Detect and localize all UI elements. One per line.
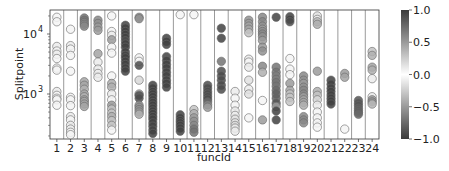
y-axis: 103104	[23, 16, 50, 136]
data-point	[286, 97, 294, 105]
data-point	[135, 110, 143, 118]
data-point	[94, 49, 102, 57]
data-point	[341, 125, 349, 133]
series-funcid-24	[368, 47, 376, 108]
x-tick-label: 22	[338, 142, 352, 155]
data-point	[272, 13, 280, 21]
data-point	[258, 68, 266, 76]
data-point	[245, 114, 253, 122]
data-point	[272, 116, 280, 124]
colorbar-tick-label: 1.0	[413, 4, 431, 17]
data-point	[176, 127, 184, 135]
colorbar-tick-label: 0.0	[413, 69, 431, 82]
y-tick-label: 10	[23, 28, 37, 41]
data-point	[94, 26, 102, 34]
colorbar-tick-label: −1.0	[413, 133, 440, 146]
x-tick-label: 24	[365, 142, 379, 155]
data-point	[149, 129, 157, 137]
data-point	[354, 110, 362, 118]
data-point	[245, 29, 253, 37]
data-point	[203, 103, 211, 111]
data-point	[272, 107, 280, 115]
x-tick-label: 9	[163, 142, 170, 155]
series-funcid-19	[299, 72, 307, 127]
data-point	[217, 85, 225, 93]
x-tick-label: 6	[122, 142, 129, 155]
data-point	[190, 10, 198, 18]
series-funcid-6	[121, 21, 129, 75]
series-funcid-9	[162, 34, 170, 91]
data-point	[245, 63, 253, 71]
colorbar: 1.00.50.0−0.5−1.0	[401, 4, 440, 146]
data-point	[135, 61, 143, 69]
data-point	[341, 73, 349, 81]
data-point	[368, 51, 376, 59]
data-point	[258, 96, 266, 104]
data-point	[217, 34, 225, 42]
series-funcid-14	[231, 87, 239, 135]
colorbar-gradient	[401, 10, 409, 139]
data-point	[299, 119, 307, 127]
data-point	[299, 101, 307, 109]
x-tick-label: 3	[81, 142, 88, 155]
x-tick-label: 1	[53, 142, 60, 155]
data-point	[107, 49, 115, 57]
data-point	[286, 70, 294, 78]
data-point	[286, 18, 294, 26]
data-point	[313, 20, 321, 28]
data-point	[176, 10, 184, 18]
data-point	[135, 14, 143, 22]
colorbar-tick-label: 0.5	[413, 36, 431, 49]
data-point	[245, 90, 253, 98]
data-point	[66, 51, 74, 59]
data-point	[107, 72, 115, 80]
x-tick-label: 5	[108, 142, 115, 155]
data-point	[135, 76, 143, 84]
y-tick-exponent: 3	[38, 85, 43, 94]
data-point	[107, 126, 115, 134]
data-point	[94, 73, 102, 81]
y-axis-label: Splitpoint	[13, 47, 26, 100]
series-funcid-12	[203, 81, 211, 111]
x-tick-label: 17	[269, 142, 283, 155]
x-tick-label: 10	[173, 142, 187, 155]
data-point	[66, 67, 74, 75]
data-point	[53, 18, 61, 26]
series-funcid-5	[107, 12, 115, 135]
data-point	[53, 54, 61, 62]
data-point	[258, 116, 266, 124]
data-point	[66, 25, 74, 33]
data-point	[217, 24, 225, 32]
data-point	[162, 83, 170, 91]
data-point	[258, 47, 266, 55]
data-point	[162, 40, 170, 48]
data-point	[327, 100, 335, 108]
x-tick-label: 4	[94, 142, 101, 155]
colorbar-tick-label: −0.5	[413, 101, 440, 114]
data-point	[53, 101, 61, 109]
x-tick-label: 7	[136, 142, 143, 155]
data-point	[190, 128, 198, 136]
data-point	[80, 22, 88, 30]
plot-area	[50, 10, 379, 139]
x-tick-label: 2	[67, 142, 74, 155]
data-point	[121, 67, 129, 75]
x-tick-label: 20	[310, 142, 324, 155]
x-tick-label: 15	[242, 142, 256, 155]
data-point	[368, 66, 376, 74]
x-tick-label: 23	[351, 142, 365, 155]
x-tick-label: 19	[297, 142, 311, 155]
data-point	[313, 67, 321, 75]
x-tick-label: 16	[255, 142, 269, 155]
x-tick-label: 21	[324, 142, 338, 155]
data-point	[286, 54, 294, 62]
y-tick-exponent: 4	[38, 25, 43, 34]
data-point	[217, 57, 225, 65]
data-point	[245, 76, 253, 84]
x-axis-label: funcId	[197, 151, 231, 164]
data-point	[107, 36, 115, 44]
x-tick-label: 18	[283, 142, 297, 155]
data-point	[53, 66, 61, 74]
scatter-chart: 123456789101112131415161718192021222324 …	[0, 0, 449, 171]
data-point	[313, 123, 321, 131]
